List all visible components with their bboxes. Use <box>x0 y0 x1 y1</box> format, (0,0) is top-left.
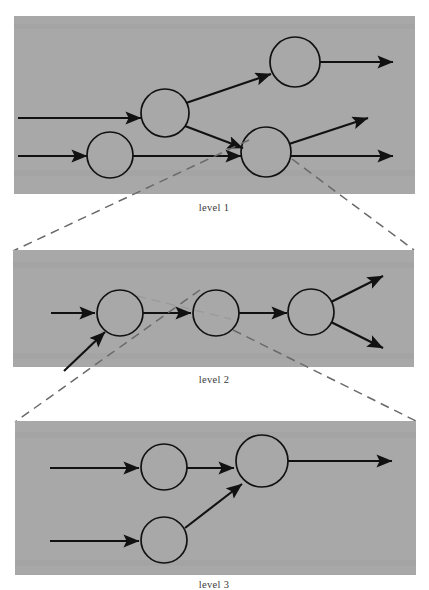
panel-texture-band <box>15 560 416 566</box>
level-diagram-canvas: level 1 level 2 <box>0 0 429 590</box>
panel-level-1 <box>14 16 415 194</box>
panel-label-level-3: level 3 <box>199 579 229 590</box>
panel-label-level-1: level 1 <box>199 202 229 213</box>
panel-level-2 <box>13 250 414 372</box>
panel-texture-band <box>14 170 415 176</box>
panel-texture-band <box>13 262 414 268</box>
panel-texture-band <box>14 24 415 29</box>
panel-texture-band <box>15 432 416 438</box>
panel-level-3 <box>15 421 416 575</box>
panel-background-level-1 <box>14 16 415 194</box>
panel-label-level-2: level 2 <box>199 374 229 385</box>
figure-root: level 1 level 2 <box>0 0 429 590</box>
panel-background-level-3 <box>15 421 416 575</box>
panel-texture-band <box>13 353 414 359</box>
